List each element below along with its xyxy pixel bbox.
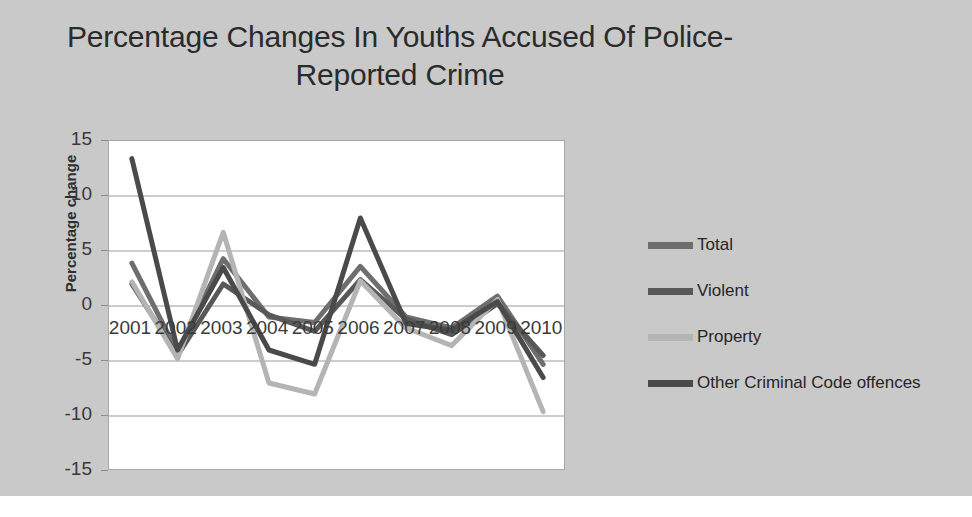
x-tick-label: 2004: [246, 317, 288, 339]
legend-label: Total: [697, 235, 733, 255]
legend-label: Violent: [697, 281, 749, 301]
y-axis-title: Percentage change: [62, 134, 79, 314]
x-tick-label: 2009: [474, 317, 516, 339]
x-tick-label: 2006: [337, 317, 379, 339]
y-tick-label: 10: [40, 183, 92, 205]
legend-label: Property: [697, 327, 761, 347]
y-tick-label: 15: [40, 128, 92, 150]
legend-item[interactable]: Violent: [648, 268, 921, 314]
y-tick-mark: [101, 195, 108, 196]
y-tick-label: -5: [40, 348, 92, 370]
legend-color-swatch: [648, 380, 693, 387]
y-tick-mark: [101, 415, 108, 416]
legend-item[interactable]: Total: [648, 222, 921, 268]
legend-item[interactable]: Other Criminal Code offences: [648, 360, 921, 406]
legend-item[interactable]: Property: [648, 314, 921, 360]
x-tick-label: 2008: [429, 317, 471, 339]
series-line: [132, 159, 543, 378]
x-tick-label: 2007: [383, 317, 425, 339]
x-tick-label: 2001: [109, 317, 151, 339]
legend-color-swatch: [648, 288, 693, 295]
chart-title: Percentage Changes In Youths Accused Of …: [60, 18, 740, 94]
x-tick-label: 2003: [200, 317, 242, 339]
legend-color-swatch: [648, 334, 693, 341]
y-tick-mark: [101, 470, 108, 471]
y-tick-mark: [101, 305, 108, 306]
y-tick-mark: [101, 360, 108, 361]
y-tick-mark: [101, 140, 108, 141]
plot-area: [108, 140, 565, 470]
series-lines-svg: [109, 141, 564, 469]
y-tick-label: 0: [40, 293, 92, 315]
legend-color-swatch: [648, 242, 693, 249]
x-tick-label: 2010: [520, 317, 562, 339]
chart-page: Percentage Changes In Youths Accused Of …: [0, 0, 972, 517]
y-tick-label: -10: [40, 403, 92, 425]
bottom-white-strip: [0, 496, 972, 517]
y-tick-label: -15: [40, 458, 92, 480]
y-tick-mark: [101, 250, 108, 251]
x-tick-label: 2002: [155, 317, 197, 339]
legend-label: Other Criminal Code offences: [697, 373, 921, 393]
y-tick-label: 5: [40, 238, 92, 260]
chart-legend: TotalViolentPropertyOther Criminal Code …: [648, 222, 921, 406]
x-tick-label: 2005: [292, 317, 334, 339]
chart-canvas: Percentage Changes In Youths Accused Of …: [0, 0, 972, 496]
